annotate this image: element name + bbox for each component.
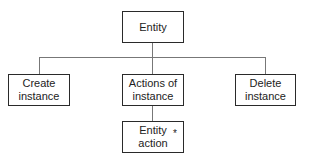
create-instance-line2: instance: [19, 90, 60, 103]
entity-action-box: Entity action *: [122, 121, 184, 153]
connector-actions-to-entity-action: [152, 106, 153, 121]
delete-instance-line2: instance: [245, 90, 286, 103]
connector-delete: [265, 57, 266, 74]
connector-create: [39, 57, 40, 74]
actions-of-instance-line2: instance: [129, 90, 177, 103]
entity-label: Entity: [139, 21, 167, 34]
iteration-marker: *: [173, 129, 177, 139]
actions-of-instance-box: Actions of instance: [122, 74, 184, 106]
actions-of-instance-line1: Actions of: [129, 77, 177, 90]
entity-box: Entity: [122, 11, 184, 43]
create-instance-line1: Create: [19, 77, 60, 90]
entity-action-line2: action: [138, 137, 167, 150]
entity-action-line1: Entity: [138, 124, 167, 137]
delete-instance-box: Delete instance: [235, 74, 296, 106]
delete-instance-line1: Delete: [245, 77, 286, 90]
create-instance-box: Create instance: [8, 74, 70, 106]
connector-actions: [152, 57, 153, 74]
connector-root-down: [152, 43, 153, 57]
